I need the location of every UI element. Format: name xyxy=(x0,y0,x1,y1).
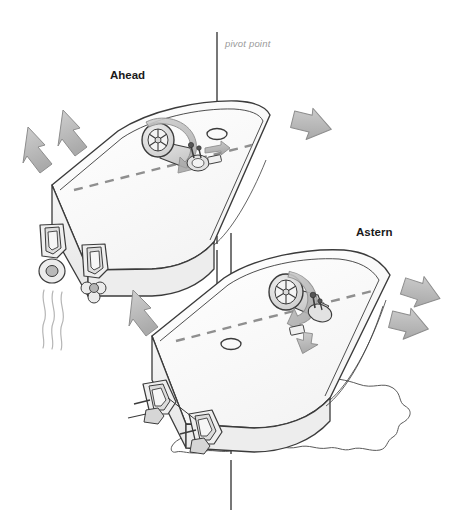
diagram-canvas: Ahead pivot point xyxy=(0,0,462,524)
lower-thrust-arrow-port xyxy=(129,290,158,336)
lower-thrust-arrows-starboard xyxy=(387,271,445,344)
boat-pivot-point-diagram: Ahead pivot point xyxy=(0,0,462,524)
ahead-label: Ahead xyxy=(110,69,145,81)
lower-outboard-port xyxy=(128,380,176,424)
upper-outboard-port xyxy=(39,224,66,283)
pivot-point-label: pivot point xyxy=(224,38,271,49)
upper-wake-lines xyxy=(43,290,64,350)
upper-steering-wheel xyxy=(142,123,174,157)
astern-label: Astern xyxy=(356,226,392,238)
upper-thrust-arrow-starboard xyxy=(289,104,336,145)
